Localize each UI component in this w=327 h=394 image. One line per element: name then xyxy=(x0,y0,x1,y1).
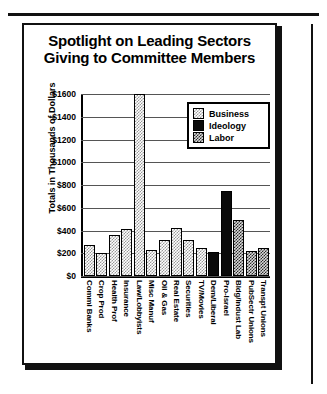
x-label-slot: Comml Banks xyxy=(83,280,95,366)
bar-slot xyxy=(158,94,170,276)
x-axis-tick-label: Crop Prod xyxy=(97,280,106,366)
x-label-slot: Crop Prod xyxy=(95,280,107,366)
legend-swatch-labor xyxy=(193,132,204,143)
figure-page: Spotlight on Leading Sectors Giving to C… xyxy=(0,0,327,394)
legend-item-ideology: Ideology xyxy=(193,120,264,131)
gridline xyxy=(81,276,270,277)
bar-slot xyxy=(95,94,107,276)
bar xyxy=(196,248,207,276)
y-axis-tick-label: $400 xyxy=(57,226,76,236)
x-label-slot: Securities xyxy=(183,280,195,366)
legend-label-business: Business xyxy=(209,109,249,119)
bar xyxy=(246,251,257,276)
x-axis-tick-label: Dem/Liberal xyxy=(209,280,218,366)
bar-slot xyxy=(108,94,120,276)
x-label-slot: Health Prof xyxy=(108,280,120,366)
chart-frame: Spotlight on Leading Sectors Giving to C… xyxy=(22,23,277,365)
bar xyxy=(109,235,120,276)
bar-slot xyxy=(145,94,157,276)
page-right-rule xyxy=(311,24,313,384)
legend-item-labor: Labor xyxy=(193,132,264,143)
bar xyxy=(183,240,194,276)
legend-item-business: Business xyxy=(193,108,264,119)
bar xyxy=(208,252,219,276)
bar xyxy=(171,228,182,276)
x-axis-tick-label: Health Prof xyxy=(110,280,119,366)
bar xyxy=(96,253,107,276)
x-label-slot: Dem/Liberal xyxy=(208,280,220,366)
y-axis-tick-label: $200 xyxy=(57,248,76,258)
x-label-slot: Pro-Israel xyxy=(220,280,232,366)
chart-title-line-1: Spotlight on Leading Sectors xyxy=(24,32,275,49)
x-axis-tick-label: TV/Movies xyxy=(197,280,206,366)
x-label-slot: Misc Manuf xyxy=(145,280,157,366)
x-axis-tick-label: Insurance xyxy=(122,280,131,366)
x-label-slot: Transpt Unions xyxy=(258,280,270,366)
x-axis-tick-label: Comml Banks xyxy=(85,280,94,366)
x-axis-tick-label: Law/Lobbyists xyxy=(135,280,144,366)
page-top-rule xyxy=(8,13,319,16)
y-axis-tick-label: $1200 xyxy=(52,135,76,145)
bar xyxy=(134,94,145,276)
bar xyxy=(159,240,170,276)
x-axis-tick-label: Securities xyxy=(184,280,193,366)
legend-label-ideology: Ideology xyxy=(209,121,246,131)
bar xyxy=(121,229,132,276)
bar xyxy=(146,250,157,276)
bar-slot xyxy=(170,94,182,276)
chart-title-line-2: Giving to Committee Members xyxy=(24,49,275,66)
x-axis-tick-label: PubSectr Unions xyxy=(247,280,256,366)
chart-legend: Business Ideology Labor xyxy=(187,102,270,149)
y-axis-tick-label: $1000 xyxy=(52,157,76,167)
bar-slot xyxy=(83,94,95,276)
bar-slot xyxy=(120,94,132,276)
y-axis-tick-label: $800 xyxy=(57,180,76,190)
x-axis-tick-label: Misc Manuf xyxy=(147,280,156,366)
x-label-slot: PubSectr Unions xyxy=(245,280,257,366)
y-axis-tick-label: $600 xyxy=(57,203,76,213)
bar xyxy=(84,245,95,276)
legend-swatch-ideology xyxy=(193,120,204,131)
x-axis-labels: Comml BanksCrop ProdHealth ProfInsurance… xyxy=(83,280,270,366)
x-axis-tick-label: Pro-Israel xyxy=(222,280,231,366)
bar xyxy=(258,248,269,276)
x-axis-tick-label: Bldg/Indust Lab xyxy=(234,280,243,366)
x-axis-tick-label: Real Estate xyxy=(172,280,181,366)
x-label-slot: Insurance xyxy=(120,280,132,366)
bar-slot xyxy=(133,94,145,276)
x-axis-tick-label: Transpt Unions xyxy=(259,280,268,366)
x-axis-tick-label: Oil & Gas xyxy=(160,280,169,366)
bar xyxy=(221,191,232,276)
bar xyxy=(233,220,244,276)
x-label-slot: Bldg/Indust Lab xyxy=(233,280,245,366)
legend-swatch-business xyxy=(193,108,204,119)
x-label-slot: Real Estate xyxy=(170,280,182,366)
y-axis-tick-label: $1400 xyxy=(52,112,76,122)
x-label-slot: Law/Lobbyists xyxy=(133,280,145,366)
y-axis-tick-label: $1600 xyxy=(52,89,76,99)
legend-label-labor: Labor xyxy=(209,133,234,143)
x-label-slot: Oil & Gas xyxy=(158,280,170,366)
y-axis-tick-label: $0 xyxy=(67,271,76,281)
x-label-slot: TV/Movies xyxy=(195,280,207,366)
chart-title: Spotlight on Leading Sectors Giving to C… xyxy=(24,32,275,66)
